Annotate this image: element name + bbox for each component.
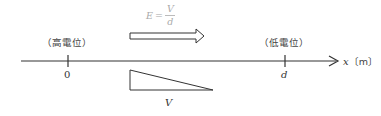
formula-equals: = xyxy=(155,10,163,21)
field-formula: E = V d xyxy=(146,4,176,26)
formula-numerator: V xyxy=(165,4,176,15)
d-label: d xyxy=(281,69,287,80)
field-direction-arrow xyxy=(130,29,204,43)
high-potential-label: （高電位） xyxy=(42,35,92,49)
axis-label: x〔m〕 xyxy=(343,54,378,68)
formula-fraction: V d xyxy=(165,4,176,26)
formula-denominator: d xyxy=(165,15,175,27)
potential-triangle xyxy=(130,70,213,90)
origin-label: 0 xyxy=(64,69,70,80)
low-potential-label: （低電位） xyxy=(259,35,309,49)
axis-unit: 〔m〕 xyxy=(349,56,378,67)
potential-label: V xyxy=(165,97,172,108)
formula-lhs: E xyxy=(146,10,153,21)
diagram-canvas xyxy=(0,0,381,116)
